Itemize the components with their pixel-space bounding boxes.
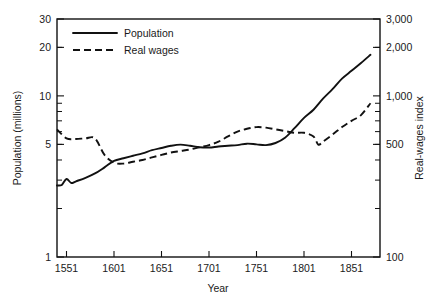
left-axis: 15102030 <box>39 13 64 263</box>
x-tick-label: 1801 <box>292 262 316 274</box>
x-tick-label: 1651 <box>150 262 174 274</box>
y2-tick-label: 2,000 <box>386 41 412 53</box>
series-line-population <box>57 55 371 186</box>
population-realwages-line-chart: 15102030 1005001,0002,0003,000 155116011… <box>0 0 442 308</box>
y2-tick-label: 500 <box>386 138 404 150</box>
legend-label-real-wages: Real wages <box>124 44 179 56</box>
chart-figure: 15102030 1005001,0002,0003,000 155116011… <box>0 0 442 308</box>
y2-tick-label: 3,000 <box>386 13 412 25</box>
x-tick-label: 1551 <box>55 262 79 274</box>
series-layer <box>57 55 371 186</box>
series-line-real-wages <box>57 103 371 163</box>
y-tick-label: 10 <box>39 90 51 102</box>
x-tick-label: 1751 <box>245 262 269 274</box>
y2-axis-title: Real-wages index <box>413 96 425 180</box>
y2-tick-label: 1,000 <box>386 90 412 102</box>
chart-legend: Population Real wages <box>73 27 179 56</box>
legend-label-population: Population <box>124 27 174 39</box>
y-tick-label: 5 <box>45 138 51 150</box>
y-tick-label: 20 <box>39 41 51 53</box>
x-tick-label: 1701 <box>197 262 221 274</box>
bottom-axis: 1551160116511701175118011851 <box>55 251 364 274</box>
x-axis-title: Year <box>207 282 229 294</box>
y2-tick-label: 100 <box>386 251 404 263</box>
right-axis: 1005001,0002,0003,000 <box>373 13 412 263</box>
y-tick-label: 1 <box>45 251 51 263</box>
x-tick-label: 1851 <box>340 262 364 274</box>
plot-frame <box>57 19 380 257</box>
x-tick-label: 1601 <box>102 262 126 274</box>
y-axis-title: Population (millions) <box>11 91 23 186</box>
y-tick-label: 30 <box>39 13 51 25</box>
